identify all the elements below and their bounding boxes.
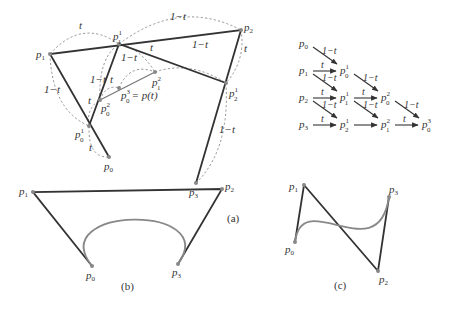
scheme-p3: p3 xyxy=(298,118,309,132)
bezier-curve-c xyxy=(295,197,389,242)
point-p0 xyxy=(90,264,94,268)
label-p1: p1 xyxy=(18,185,29,199)
point-p1 xyxy=(302,183,306,187)
weight-t: t xyxy=(88,94,92,106)
label-p02: p20 xyxy=(100,101,111,118)
scheme-p0: p0 xyxy=(298,37,309,51)
scheme-p02: p20 xyxy=(380,90,391,107)
caption-c: (c) xyxy=(334,279,347,292)
control-polygon-b xyxy=(33,189,222,266)
label-p01: p10 xyxy=(74,127,85,144)
point-p1 xyxy=(31,190,35,194)
scheme-p1: p1 xyxy=(298,64,309,78)
panel-c: p1 p0 p2 p3 (c) xyxy=(284,180,399,292)
weight-omt: 1−t xyxy=(121,51,138,63)
arrow-label-omt: 1−t xyxy=(322,72,337,83)
weight-omt: 1−t xyxy=(192,38,209,50)
arrow-label-omt: 1−t xyxy=(363,99,378,110)
label-p03: p30= p(t) xyxy=(120,88,158,105)
label-p0: p0 xyxy=(284,243,295,257)
arrow-label-t: t xyxy=(321,86,324,97)
point-p21 xyxy=(224,81,228,85)
scheme-p21: p12 xyxy=(339,117,350,134)
caption-b: (b) xyxy=(121,280,134,293)
triangle-scheme: p0 p1 p2 p3 p10 p11 p12 p20 p21 p30 t t … xyxy=(298,37,432,134)
label-p3: p3 xyxy=(171,266,182,280)
arrow-label-omt: 1−t xyxy=(322,45,337,56)
bezier-figure: p1 p0 p2 p3 p11 p10 p12 p20 p21 p30= p(t… xyxy=(0,0,455,309)
point-p2 xyxy=(239,28,243,32)
label-p2: p2 xyxy=(224,180,235,194)
arrow-label-omt: 1−t xyxy=(404,99,419,110)
arrow-label-omt: 1−t xyxy=(363,72,378,83)
weight-omt: 1−t xyxy=(44,83,61,95)
weight-omt: 1−t xyxy=(219,123,236,135)
caption-a: (a) xyxy=(227,212,240,225)
scheme-p01: p10 xyxy=(339,63,350,80)
arrow-label-t: t xyxy=(321,113,324,124)
point-p3 xyxy=(387,195,391,199)
weight-omt: 1−t xyxy=(90,73,107,85)
control-polygon-c xyxy=(295,185,389,271)
point-p3 xyxy=(194,181,198,185)
weight-t: t xyxy=(89,141,93,153)
bezier-curve-b xyxy=(84,220,185,266)
arc-p03-p12 xyxy=(119,69,155,88)
point-p01 xyxy=(87,124,91,128)
arc-p1-p11 xyxy=(50,33,119,54)
point-p2 xyxy=(220,187,224,191)
label-p0: p0 xyxy=(85,269,96,283)
panel-b: p1 p0 p2 p3 (b) xyxy=(18,180,235,293)
label-p2: p2 xyxy=(243,21,254,35)
weight-t: t xyxy=(150,41,154,53)
scheme-p2: p2 xyxy=(298,91,309,105)
point-p12 xyxy=(153,70,157,74)
point-p0 xyxy=(107,155,111,159)
scheme-p12: p21 xyxy=(380,117,391,134)
arrow-label-t: t xyxy=(362,86,365,97)
weight-t: t xyxy=(110,73,114,85)
point-p1 xyxy=(48,52,52,56)
label-p1: p1 xyxy=(35,48,46,62)
scheme-p11: p11 xyxy=(339,90,350,107)
scheme-p03: p30 xyxy=(421,117,432,134)
label-p3: p3 xyxy=(188,186,199,200)
label-p11: p11 xyxy=(112,29,123,46)
arrow-label-omt: 1−t xyxy=(322,99,337,110)
label-p1: p1 xyxy=(288,180,299,194)
weight-t: t xyxy=(244,42,248,54)
label-p2: p2 xyxy=(378,273,389,287)
point-p0 xyxy=(293,240,297,244)
arrow-label-t: t xyxy=(321,59,324,70)
label-p3: p3 xyxy=(388,183,399,197)
weight-t: t xyxy=(79,19,83,31)
label-p21: p12 xyxy=(228,86,239,103)
label-p0: p0 xyxy=(103,160,114,174)
weight-omt: 1−t xyxy=(170,10,187,22)
arrow-label-t: t xyxy=(403,113,406,124)
